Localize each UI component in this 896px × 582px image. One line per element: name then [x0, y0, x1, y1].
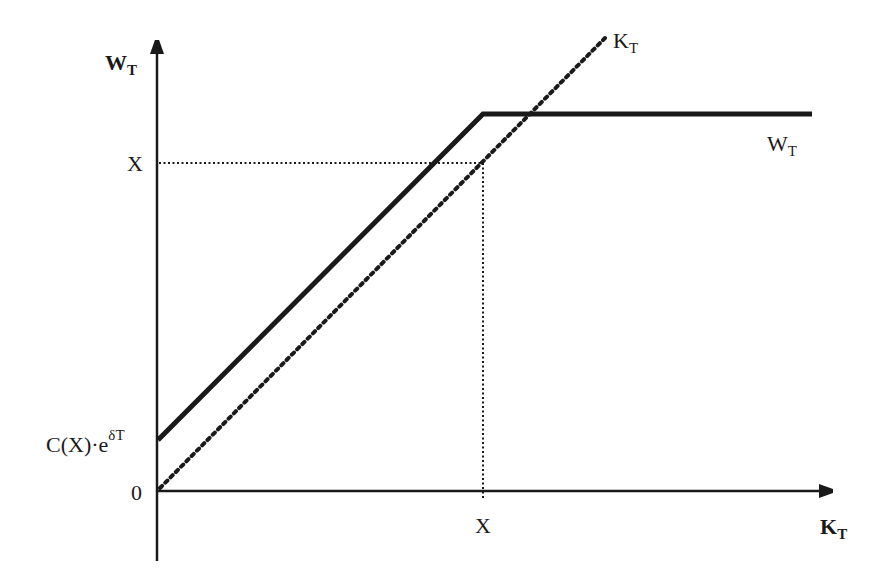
kt-line-label-sub: T	[629, 40, 638, 56]
kt-diagonal-line	[160, 38, 605, 488]
x-axis-label-sub: T	[837, 526, 847, 542]
wt-line-label: WT	[767, 133, 797, 159]
origin-text: 0	[131, 480, 142, 505]
x-axis-label: KT	[820, 516, 847, 542]
wt-line-label-main: W	[767, 131, 788, 156]
x-axis-label-main: K	[820, 514, 837, 539]
y-intercept-sup: δT	[108, 427, 124, 443]
origin-label: 0	[131, 482, 142, 504]
y-intercept-main: C(X)·e	[46, 432, 108, 457]
y-intercept-label: C(X)·eδT	[46, 432, 125, 456]
y-axis-label-sub: T	[127, 62, 137, 78]
y-tick-x: X	[127, 153, 143, 175]
x-tick-x: X	[475, 515, 491, 537]
y-tick-x-text: X	[127, 151, 143, 176]
wt-line-label-sub: T	[788, 143, 797, 159]
kt-line-label-main: K	[613, 28, 629, 53]
y-axis-label-main: W	[105, 50, 127, 75]
x-tick-x-text: X	[475, 513, 491, 538]
y-axis-label: WT	[105, 52, 137, 78]
kt-line-label: KT	[613, 30, 638, 56]
